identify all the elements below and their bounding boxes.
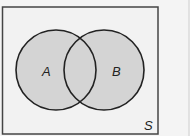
venn-diagram: A B S xyxy=(0,0,190,136)
set-a-label: A xyxy=(41,64,51,79)
set-b-label: B xyxy=(112,64,121,79)
universe-label: S xyxy=(144,118,153,133)
